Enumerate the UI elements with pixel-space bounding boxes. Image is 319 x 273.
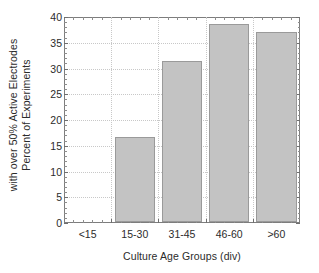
y-axis-minor-tick: [298, 135, 301, 136]
y-axis-minor-tick: [298, 141, 301, 142]
y-axis-tick-label: 20: [50, 114, 62, 126]
y-axis-minor-tick: [64, 48, 67, 49]
bar-15-30: [115, 137, 156, 222]
x-axis-tick-label: 46-60: [216, 228, 243, 240]
x-axis-minor-tick: [215, 17, 216, 20]
y-axis-minor-tick: [298, 115, 301, 116]
x-axis-minor-tick: [83, 220, 84, 223]
y-axis-minor-tick: [64, 125, 67, 126]
x-axis-minor-tick: [102, 220, 103, 223]
x-axis-minor-tick: [272, 17, 273, 20]
y-axis-tick-label: 5: [56, 191, 62, 203]
y-axis-title: Percent of Experiments with over 50% Act…: [0, 0, 40, 230]
y-axis-major-tick: [64, 223, 68, 224]
y-axis-major-tick: [64, 69, 68, 70]
y-axis-minor-tick: [64, 84, 67, 85]
y-axis-major-tick: [64, 43, 68, 44]
y-axis-minor-tick: [64, 58, 67, 59]
y-axis-minor-tick: [298, 177, 301, 178]
x-axis-minor-tick: [73, 220, 74, 223]
x-axis-minor-tick: [83, 17, 84, 20]
x-axis-minor-tick: [73, 17, 74, 20]
y-axis-tick-label: 35: [50, 37, 62, 49]
x-axis-minor-tick: [102, 17, 103, 20]
y-axis-minor-tick: [64, 166, 67, 167]
gridline-vertical: [111, 17, 112, 223]
y-axis-major-tick: [64, 197, 68, 198]
y-axis-minor-tick: [298, 89, 301, 90]
y-axis-minor-tick: [64, 79, 67, 80]
y-axis-major-tick: [64, 146, 68, 147]
y-axis-minor-tick: [298, 110, 301, 111]
bar-46-60: [209, 24, 250, 222]
y-axis-minor-tick: [64, 187, 67, 188]
y-axis-major-tick: [296, 17, 300, 18]
x-axis-tick-label: 31-45: [169, 228, 196, 240]
y-axis-minor-tick: [298, 151, 301, 152]
x-axis-tick-labels: <1515-3031-4546-60>60: [64, 228, 300, 244]
y-axis-major-tick: [64, 172, 68, 173]
y-axis-minor-tick: [298, 202, 301, 203]
x-axis-minor-tick: [196, 17, 197, 20]
x-axis-minor-tick: [281, 17, 282, 20]
x-axis-tick-label: 15-30: [121, 228, 148, 240]
bar-chart-figure: Percent of Experiments with over 50% Act…: [0, 0, 319, 273]
y-axis-major-tick: [296, 223, 300, 224]
y-axis-minor-tick: [64, 32, 67, 33]
y-axis-tick-label: 0: [56, 217, 62, 229]
y-axis-minor-tick: [298, 213, 301, 214]
y-axis-minor-tick: [64, 202, 67, 203]
x-axis-minor-tick: [121, 17, 122, 20]
y-axis-minor-tick: [298, 79, 301, 80]
y-axis-tick-label: 10: [50, 166, 62, 178]
y-axis-minor-tick: [298, 27, 301, 28]
y-axis-minor-tick: [64, 63, 67, 64]
y-axis-major-tick: [64, 120, 68, 121]
y-axis-minor-tick: [298, 48, 301, 49]
gridline-vertical: [206, 17, 207, 223]
x-axis-tick-label: >60: [267, 228, 285, 240]
x-axis-minor-tick: [234, 17, 235, 20]
y-axis-minor-tick: [64, 53, 67, 54]
y-axis-minor-tick: [298, 58, 301, 59]
x-axis-major-tick: [206, 219, 207, 223]
x-axis-minor-tick: [224, 17, 225, 20]
x-axis-minor-tick: [92, 17, 93, 20]
y-axis-minor-tick: [64, 22, 67, 23]
axis-spine-top: [64, 17, 300, 18]
gridline-vertical: [253, 17, 254, 223]
y-axis-minor-tick: [64, 89, 67, 90]
plot-area: [64, 17, 300, 223]
x-axis-minor-tick: [149, 17, 150, 20]
y-axis-minor-tick: [298, 166, 301, 167]
y-axis-minor-tick: [298, 63, 301, 64]
y-axis-minor-tick: [298, 187, 301, 188]
y-axis-minor-tick: [64, 105, 67, 106]
bar-31-45: [162, 61, 203, 222]
y-axis-tick-labels: 0510152025303540: [36, 17, 62, 223]
x-axis-minor-tick: [140, 17, 141, 20]
y-axis-title-line-1: Percent of Experiments: [20, 59, 33, 170]
y-axis-minor-tick: [64, 151, 67, 152]
x-axis-major-tick: [253, 219, 254, 223]
y-axis-minor-tick: [64, 192, 67, 193]
y-axis-minor-tick: [64, 182, 67, 183]
y-axis-minor-tick: [64, 177, 67, 178]
y-axis-minor-tick: [64, 38, 67, 39]
y-axis-title-line-2: with over 50% Active Electrodes: [7, 39, 20, 192]
x-axis-minor-tick: [187, 17, 188, 20]
x-axis-minor-tick: [177, 17, 178, 20]
x-axis-tick-label: <15: [79, 228, 97, 240]
x-axis-minor-tick: [168, 17, 169, 20]
x-axis-major-tick: [111, 219, 112, 223]
y-axis-minor-tick: [298, 156, 301, 157]
x-axis-minor-tick: [243, 17, 244, 20]
bar->60: [256, 32, 297, 222]
y-axis-minor-tick: [298, 74, 301, 75]
y-axis-tick-label: 25: [50, 88, 62, 100]
y-axis-tick-label: 30: [50, 63, 62, 75]
y-axis-minor-tick: [64, 218, 67, 219]
y-axis-minor-tick: [64, 27, 67, 28]
x-axis-minor-tick: [262, 17, 263, 20]
y-axis-minor-tick: [298, 125, 301, 126]
